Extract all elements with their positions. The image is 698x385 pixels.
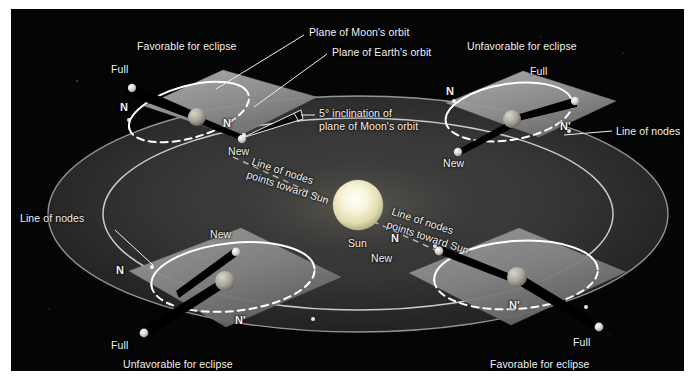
node-n-marker-bottom-right (433, 244, 437, 248)
earth-top-right (503, 110, 521, 128)
sun (333, 180, 383, 230)
moon-new-bottom-right (435, 247, 444, 256)
node-n-marker-top-right (452, 99, 456, 103)
node-nprime-marker-bottom-left (311, 317, 315, 321)
moon-full-bottom-left (140, 329, 149, 338)
diagram-panel: Plane of Moon's orbit Plane of Earth's o… (11, 9, 684, 371)
earth-bottom-right (507, 267, 527, 287)
node-nprime-marker-top-right (567, 129, 571, 133)
moon-full-top-left (128, 84, 136, 92)
node-n-marker-top-left (127, 118, 131, 122)
moon-new-bottom-left (232, 248, 241, 257)
node-nprime-marker-bottom-right (584, 305, 588, 309)
earth-bottom-left (215, 271, 235, 291)
eclipse-season-figure: Plane of Moon's orbit Plane of Earth's o… (0, 0, 698, 385)
earth-top-left (188, 108, 206, 126)
moon-full-top-right (571, 97, 579, 105)
diagram-scene (11, 9, 684, 371)
moon-full-bottom-right (595, 323, 604, 332)
node-n-marker-bottom-left (150, 265, 154, 269)
moon-new-top-right (454, 148, 462, 156)
